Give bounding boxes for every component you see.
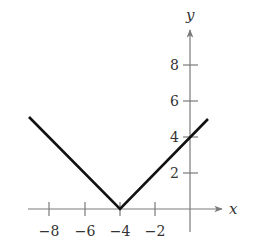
x-tick-label: −6 [75,223,96,239]
graph-canvas: −8 −6 −4 −2 8 6 4 2 x y [0,0,254,247]
x-tick-label: −2 [145,223,166,239]
y-tick-label: 6 [170,93,179,109]
y-tick-label: 4 [170,129,179,145]
y-tick-label: 2 [170,165,179,181]
x-axis-label: x [229,200,238,218]
y-axis-label: y [185,6,195,24]
absolute-value-curve [29,117,208,209]
x-tick-label: −4 [110,223,131,239]
x-tick-label: −8 [39,223,60,239]
y-tick-label: 8 [170,57,179,73]
